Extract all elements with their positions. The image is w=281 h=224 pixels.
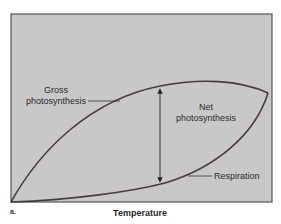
panel-label: a.	[10, 208, 16, 215]
gross-label-line2: photosynthesis	[26, 96, 87, 106]
net-label-line1: Net	[199, 102, 214, 112]
x-axis-label: Temperature	[113, 208, 167, 218]
photosynthesis-temperature-diagram: Gross photosynthesis Net photosynthesis …	[0, 0, 281, 224]
net-label-line2: photosynthesis	[176, 113, 237, 123]
respiration-label: Respiration	[214, 171, 260, 181]
gross-label-line1: Gross	[44, 85, 69, 95]
